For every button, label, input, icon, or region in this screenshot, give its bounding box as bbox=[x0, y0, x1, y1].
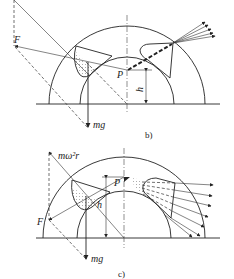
bucket-fill-b bbox=[75, 52, 94, 76]
bucket-right-c bbox=[143, 178, 175, 218]
figure-c: mω²r F mg P h bbox=[36, 148, 220, 279]
spray-fan-c bbox=[142, 182, 213, 237]
spray-origin-c bbox=[132, 178, 142, 192]
radius-line-b bbox=[14, 0, 90, 76]
caption-c: c) bbox=[118, 269, 125, 279]
centrifugal-arrow-c bbox=[49, 152, 124, 238]
bucket-fill-c bbox=[72, 188, 96, 209]
caption-b: b) bbox=[145, 130, 153, 140]
figure-b: F mg P h b) bbox=[13, 0, 220, 140]
diagram-canvas: F mg P h b) bbox=[0, 0, 234, 279]
label-P-b: P bbox=[116, 69, 123, 80]
label-centrifugal-c: mω²r bbox=[58, 150, 79, 161]
label-h-b: h bbox=[134, 87, 145, 92]
discharge-path-b bbox=[128, 44, 172, 70]
force-F-arrow-c bbox=[49, 177, 124, 220]
dashed-diagonal-c bbox=[49, 220, 86, 259]
pivot-marker-c bbox=[124, 177, 130, 182]
label-mg-c: mg bbox=[91, 253, 103, 264]
label-F-c: F bbox=[36, 216, 44, 227]
label-mg-b: mg bbox=[93, 119, 105, 130]
label-P-c: P bbox=[113, 177, 120, 188]
label-h-c: h bbox=[97, 199, 102, 210]
jet-fan-b bbox=[173, 22, 215, 43]
